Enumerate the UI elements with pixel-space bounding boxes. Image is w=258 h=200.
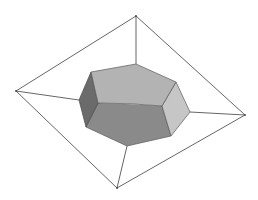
- polyhedron-figure: [0, 0, 258, 200]
- bottom-face: [86, 100, 171, 146]
- vertex-right: [244, 114, 246, 116]
- vertex-bottom: [116, 187, 118, 189]
- vertex-top: [135, 15, 137, 17]
- connector-edge-right: [190, 112, 245, 115]
- diagram-canvas: Polyhedral ring inside a quadrilateral f…: [0, 0, 258, 200]
- connector-edge-left: [16, 91, 79, 100]
- vertex-left: [15, 90, 17, 92]
- connector-edge-bottom: [117, 146, 127, 188]
- top-face: [91, 64, 176, 106]
